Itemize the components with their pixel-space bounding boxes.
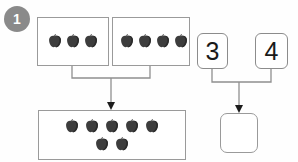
apple-icon bbox=[84, 119, 100, 134]
worksheet-problem: 1 bbox=[0, 0, 298, 162]
apple-icon bbox=[47, 34, 63, 49]
problem-number-badge: 1 bbox=[4, 6, 30, 32]
arrow-down-icon bbox=[235, 105, 243, 113]
group-box-addend-1 bbox=[37, 17, 109, 66]
apple-icon bbox=[144, 119, 160, 134]
apple-icon bbox=[104, 119, 120, 134]
group-box-addend-2 bbox=[112, 17, 190, 66]
apple-icon bbox=[124, 119, 140, 134]
number-card-addend-2: 4 bbox=[255, 33, 288, 69]
apple-icon bbox=[114, 137, 130, 152]
apple-icon bbox=[155, 34, 171, 49]
apple-icon bbox=[64, 119, 80, 134]
apple-icon bbox=[94, 137, 110, 152]
apple-icon bbox=[65, 34, 81, 49]
answer-card-sum[interactable] bbox=[220, 113, 258, 153]
arrow-down-icon bbox=[107, 102, 115, 110]
apple-icon bbox=[137, 34, 153, 49]
apple-icon bbox=[83, 34, 99, 49]
group-box-total bbox=[38, 110, 186, 160]
number-card-addend-1: 3 bbox=[197, 33, 228, 69]
apple-icon bbox=[173, 34, 189, 49]
apple-icon bbox=[119, 34, 135, 49]
